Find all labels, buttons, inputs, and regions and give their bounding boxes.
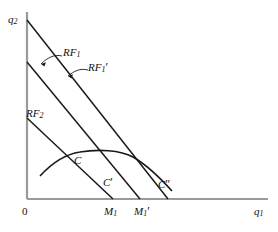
reaction-function-rf2-line bbox=[27, 118, 113, 199]
reaction-function-rf1-line bbox=[27, 62, 140, 199]
figure-container: q2 q1 0 RF1 RF1′ RF2 C C′ C″ M1 M1′ bbox=[0, 0, 278, 232]
rf2-label: RF2 bbox=[26, 108, 43, 120]
x-axis-label: q1 bbox=[254, 206, 263, 218]
reaction-function-rf1-prime-line bbox=[27, 20, 168, 199]
rf1-prime-label: RF1′ bbox=[88, 62, 108, 74]
point-c-prime-label: C′ bbox=[103, 177, 113, 189]
point-c-double-prime-label: C″ bbox=[158, 179, 170, 191]
tick-label-m1: M1 bbox=[104, 206, 117, 218]
origin-label: 0 bbox=[22, 206, 28, 217]
y-axis-label: q2 bbox=[8, 14, 17, 26]
rf1-label: RF1 bbox=[63, 47, 80, 59]
tick-label-m1-prime: M1′ bbox=[134, 206, 150, 218]
point-c-label: C bbox=[74, 155, 81, 167]
